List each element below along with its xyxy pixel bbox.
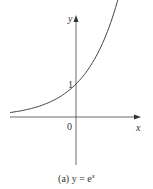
x-axis-arrow-icon [134, 115, 141, 120]
y-axis-label: y [67, 13, 73, 24]
figure-caption: (a) y = ex [0, 172, 153, 184]
y-axis-arrow-icon [74, 15, 79, 22]
exponential-graph: y x 1 0 [0, 0, 153, 189]
origin-label: 0 [67, 121, 72, 132]
caption-exponent: x [92, 172, 95, 180]
x-axis-label: x [135, 122, 141, 133]
y-intercept-label: 1 [68, 79, 73, 90]
caption-text: (a) y = e [58, 173, 92, 184]
